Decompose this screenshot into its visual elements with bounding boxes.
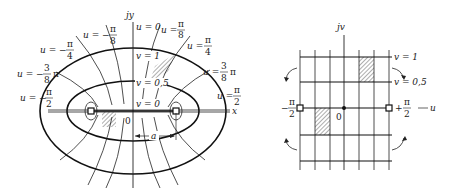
origin-label: 0 <box>125 116 131 126</box>
u-pi-4-label: u = π 4 <box>187 35 212 57</box>
u-minus-pi-8-label: u = − π 8 <box>83 24 117 46</box>
svg-text:2: 2 <box>46 99 52 109</box>
z-plane-diagram: a jy x 0 v = 1 v = 0,5 v = 0 u = 0 u = π… <box>17 10 241 188</box>
jv-axis-label: jv <box>335 22 345 32</box>
svg-text:−: − <box>281 103 289 113</box>
v-0-label: v = 0 <box>136 99 160 109</box>
svg-text:u =: u = <box>203 67 219 77</box>
svg-text:2: 2 <box>404 109 410 119</box>
svg-text:u =: u = <box>161 25 177 35</box>
v-grid-lines <box>300 57 392 161</box>
hatched-region-lower <box>102 112 116 127</box>
u-minus-3pi-8-label: u = − 3 8 π <box>17 63 59 85</box>
svg-text:8: 8 <box>44 75 50 85</box>
svg-text:4: 4 <box>67 51 73 61</box>
origin-dot <box>342 106 346 110</box>
svg-text:8: 8 <box>221 73 227 83</box>
hatched-cell-upper <box>359 57 374 82</box>
u-0-label: u = 0 <box>136 22 161 32</box>
svg-text:3: 3 <box>221 61 227 71</box>
svg-text:π: π <box>46 87 52 97</box>
w-plane-diagram: jv 0 v = 1 v = 0,5 − π 2 + π 2 u <box>281 22 436 170</box>
left-bound-marker <box>297 105 303 111</box>
distance-a-label: a <box>151 131 156 141</box>
u-axis-label: u <box>430 103 436 113</box>
w-origin-label: 0 <box>336 112 342 122</box>
svg-text:u = −: u = − <box>83 30 110 40</box>
svg-text:π: π <box>67 39 73 49</box>
svg-text:+: + <box>395 103 403 113</box>
svg-text:8: 8 <box>178 30 184 40</box>
svg-text:u =: u = <box>187 41 203 51</box>
svg-text:3: 3 <box>44 63 50 73</box>
u-3pi-8-label: u = 3 8 π <box>203 61 236 83</box>
svg-text:2: 2 <box>289 109 295 119</box>
svg-text:u = −: u = − <box>17 69 44 79</box>
x-axis-label: x <box>232 106 237 116</box>
svg-text:π: π <box>230 67 236 77</box>
u-minus-pi-2-label: u = − π 2 <box>20 87 53 109</box>
svg-text:π: π <box>404 97 410 107</box>
svg-text:u = −: u = − <box>20 93 47 103</box>
w-v-0-5-label: v = 0,5 <box>394 77 427 87</box>
w-v-1-label: v = 1 <box>394 52 418 62</box>
focus-left-marker <box>88 108 94 114</box>
svg-text:u = −: u = − <box>40 45 67 55</box>
svg-text:2: 2 <box>234 97 240 107</box>
v-1-label: v = 1 <box>136 51 160 61</box>
right-bound-label: + π 2 <box>395 97 411 119</box>
svg-text:π: π <box>234 85 240 95</box>
u-pi-8-label: u = π 8 <box>161 19 185 40</box>
svg-text:π: π <box>289 97 295 107</box>
hatched-cell-lower <box>315 108 330 135</box>
svg-text:4: 4 <box>205 47 211 57</box>
svg-text:π: π <box>205 35 211 45</box>
svg-text:π: π <box>110 24 116 34</box>
svg-text:π: π <box>53 69 59 79</box>
left-bound-label: − π 2 <box>281 97 296 119</box>
u-minus-pi-4-label: u = − π 4 <box>40 39 74 61</box>
elliptic-coordinates-figure: a jy x 0 v = 1 v = 0,5 v = 0 u = 0 u = π… <box>0 0 451 190</box>
svg-text:u =: u = <box>217 91 233 101</box>
svg-text:8: 8 <box>110 36 116 46</box>
svg-text:π: π <box>178 19 184 29</box>
jy-axis-label: jy <box>124 10 135 20</box>
v-0-5-label: v = 0,5 <box>136 78 169 88</box>
u-grid-lines <box>300 50 389 170</box>
right-bound-marker <box>386 105 392 111</box>
